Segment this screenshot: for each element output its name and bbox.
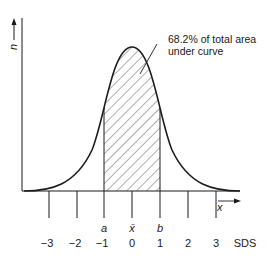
tick-label: −2: [69, 237, 82, 249]
up-arrow-icon: [12, 18, 17, 25]
tick-label: −3: [41, 237, 54, 249]
tick-label: 3: [213, 237, 219, 249]
marker-b: b: [157, 222, 163, 234]
y-axis-label: n: [7, 44, 19, 50]
annotation-line-1: 68.2% of total area: [168, 33, 256, 45]
unit-label: SDS: [234, 237, 257, 249]
x-axis-label: x: [216, 201, 223, 213]
marker-labels: a x̄ b: [101, 222, 163, 234]
marker-mean: x̄: [128, 222, 135, 234]
tick-label: 1: [157, 237, 163, 249]
annotation-line-2: under curve: [168, 45, 224, 57]
tick-label: −1: [96, 237, 109, 249]
marker-a: a: [101, 222, 107, 234]
tick-marks: [49, 191, 216, 218]
right-arrow-icon: [234, 199, 241, 204]
shaded-area: [22, 47, 240, 191]
tick-label: 2: [185, 237, 191, 249]
tick-labels: −3 −2 −1 0 1 2 3 SDS: [41, 237, 257, 249]
y-axis-label-group: n: [7, 18, 19, 50]
annotation: 68.2% of total area under curve: [140, 33, 256, 74]
normal-distribution-diagram: n x 68.2% of total area under curve a x̄…: [0, 0, 268, 263]
tick-label: 0: [129, 237, 135, 249]
x-axis-label-group: x: [216, 199, 241, 214]
